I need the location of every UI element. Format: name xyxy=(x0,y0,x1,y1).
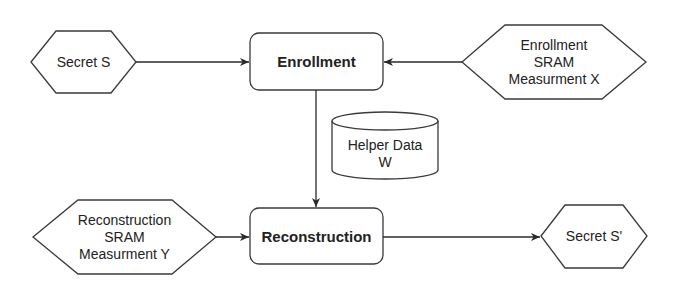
reconstruction-label: Reconstruction xyxy=(250,208,383,264)
helper-data-label: Helper Data W xyxy=(332,130,438,178)
helper-data-line-2: W xyxy=(378,154,391,171)
secret-s-text: Secret S xyxy=(57,54,111,71)
enrollment-sram-label: Enrollment SRAM Measurment X xyxy=(462,25,646,99)
enrollment-sram-line-2: SRAM xyxy=(534,54,574,71)
reconstruction-sram-label: Reconstruction SRAM Measurment Y xyxy=(33,200,216,274)
helper-data-line-1: Helper Data xyxy=(348,137,423,154)
secret-s-prime-label: Secret S' xyxy=(541,205,647,268)
secret-s-label: Secret S xyxy=(31,31,136,93)
reconstruction-sram-line-2: SRAM xyxy=(104,229,144,246)
reconstruction-text: Reconstruction xyxy=(261,228,371,245)
reconstruction-sram-line-3: Measurment Y xyxy=(79,246,170,263)
enrollment-sram-line-1: Enrollment xyxy=(521,37,588,54)
enrollment-text: Enrollment xyxy=(277,53,355,70)
reconstruction-sram-line-1: Reconstruction xyxy=(78,212,171,229)
enrollment-label: Enrollment xyxy=(250,33,383,90)
enrollment-sram-line-3: Measurment X xyxy=(508,71,599,88)
secret-s-prime-text: Secret S' xyxy=(566,228,622,245)
